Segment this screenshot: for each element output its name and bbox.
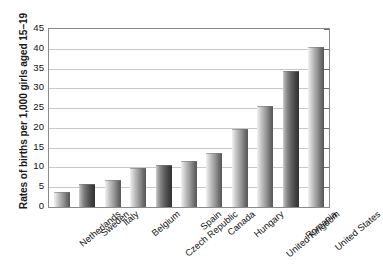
bar-top-cap xyxy=(156,165,172,166)
x-axis-label: Belgium xyxy=(150,209,183,239)
y-tick-label: 25 xyxy=(22,102,44,112)
bar-top-cap xyxy=(130,168,146,169)
y-tick-label: 30 xyxy=(22,82,44,92)
bars-group xyxy=(49,29,329,207)
bar xyxy=(79,184,95,207)
x-axis-category-labels: NetherlandsSwedenItalyBelgiumCzech Repub… xyxy=(48,209,330,279)
x-axis-label: Romania xyxy=(304,209,340,241)
bar xyxy=(206,153,222,207)
y-tick-label: 20 xyxy=(22,122,44,132)
bar xyxy=(130,168,146,207)
y-tick-mark-right xyxy=(324,207,329,208)
bar xyxy=(308,47,324,207)
bar-top-cap xyxy=(181,161,197,162)
y-tick-label: 10 xyxy=(22,161,44,171)
y-axis-tick-labels: 454035302520151050 xyxy=(22,22,44,212)
scan-bleed-artifact xyxy=(0,0,337,12)
y-tick-label: 0 xyxy=(22,201,44,211)
bar-top-cap xyxy=(308,47,324,48)
bar xyxy=(283,71,299,207)
bar xyxy=(181,161,197,207)
bar-top-cap xyxy=(79,184,95,185)
y-tick-label: 15 xyxy=(22,142,44,152)
y-tick-label: 5 xyxy=(22,181,44,191)
bar xyxy=(156,165,172,207)
bar-top-cap xyxy=(257,106,273,107)
x-axis-label: Hungary xyxy=(252,209,286,240)
bar xyxy=(232,129,248,207)
bar-top-cap xyxy=(283,71,299,72)
plot-area xyxy=(48,28,330,208)
bar xyxy=(54,192,70,207)
bar-top-cap xyxy=(54,192,70,193)
y-tick-label: 40 xyxy=(22,43,44,53)
bar-top-cap xyxy=(206,153,222,154)
bar xyxy=(257,106,273,207)
bar-top-cap xyxy=(232,129,248,130)
bar-top-cap xyxy=(105,180,121,181)
y-tick-label: 45 xyxy=(22,23,44,33)
y-tick-label: 35 xyxy=(22,63,44,73)
bar xyxy=(105,180,121,207)
